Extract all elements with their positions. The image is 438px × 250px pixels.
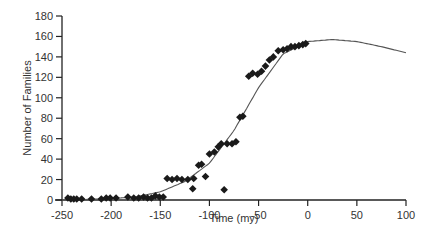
y-tick-label: 40 [41,153,53,165]
y-axis-ticks: 020406080100120140160180 [35,10,62,206]
y-tick-label: 120 [35,71,53,83]
y-axis-title: Number of Families [21,60,33,156]
data-point-diamond [189,185,197,193]
y-tick-label: 180 [35,10,53,22]
data-points [64,40,309,203]
data-point-diamond [202,173,210,181]
y-tick-label: 60 [41,133,53,145]
data-point-diamond [190,175,198,183]
x-tick-label: 0 [305,209,311,221]
data-point-diamond [78,195,86,203]
y-tick-label: 160 [35,30,53,42]
data-point-diamond [88,195,96,203]
y-tick-label: 80 [41,112,53,124]
x-tick-label: 50 [351,209,363,221]
x-tick-label: -150 [149,209,171,221]
x-tick-label: 100 [397,209,415,221]
chart: 020406080100120140160180 -250-200-150-10… [0,0,438,250]
x-axis-title: Time (my) [209,212,258,224]
y-tick-label: 0 [47,194,53,206]
x-tick-label: -200 [100,209,122,221]
x-tick-label: -250 [51,209,73,221]
data-point-diamond [220,186,228,194]
y-tick-label: 20 [41,174,53,186]
y-tick-label: 100 [35,92,53,104]
y-tick-label: 140 [35,51,53,63]
fit-curve [62,40,406,200]
